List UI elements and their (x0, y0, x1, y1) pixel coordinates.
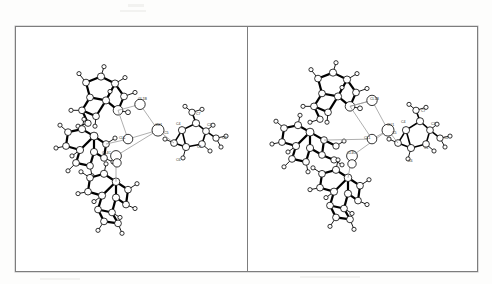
atom-label: C5 (164, 131, 169, 135)
atom-label: CL1 (119, 136, 126, 140)
atom-label: C7 (421, 109, 426, 113)
left-panel: CL1B CU1 CL1 CL4C C4 C5 C7 C3 C2 C1 C6 (16, 27, 247, 271)
atom-label: C2 (444, 136, 449, 140)
atom-label: C6 (176, 158, 181, 162)
atom-label: CL4C (347, 151, 357, 155)
atom-label: C5 (392, 131, 397, 135)
atom-label: C4 (176, 122, 181, 126)
scan-artifact (40, 278, 80, 280)
atom-label: C3 (431, 122, 436, 126)
right-panel: CL1B CU1 CL1 CL4C C4 C5 C7 C3 C2 C1 C6 (248, 27, 478, 271)
atom-label: C1 (424, 146, 429, 150)
atom-label: C7 (196, 112, 201, 116)
atom-label: C3 (207, 123, 212, 127)
figure-page: CL1B CU1 CL1 CL4C C4 C5 C7 C3 C2 C1 C6 (0, 0, 492, 284)
right-panel-structure: CL1B CU1 CL1 CL4C C4 C5 C7 C3 C2 C1 C6 (248, 27, 478, 271)
atom-label: CU1 (155, 123, 162, 127)
scan-artifact (300, 276, 360, 278)
atom-label: CL1 (364, 136, 371, 140)
atom-label: C1 (197, 145, 202, 149)
scan-artifact (120, 10, 146, 12)
atom-label: CL1B (370, 97, 380, 101)
left-panel-structure: CL1B CU1 CL1 CL4C C4 C5 C7 C3 C2 C1 C6 (16, 27, 247, 271)
figure-frame: CL1B CU1 CL1 CL4C C4 C5 C7 C3 C2 C1 C6 (15, 26, 478, 272)
atom-label: C6 (408, 159, 413, 163)
atom-label: CU1 (387, 123, 394, 127)
atom-label: C2 (222, 136, 227, 140)
atom-label: CL1B (138, 97, 148, 101)
atom-label: C4 (401, 120, 406, 124)
atom-label: CL4C (102, 151, 112, 155)
scan-artifact (128, 4, 144, 7)
